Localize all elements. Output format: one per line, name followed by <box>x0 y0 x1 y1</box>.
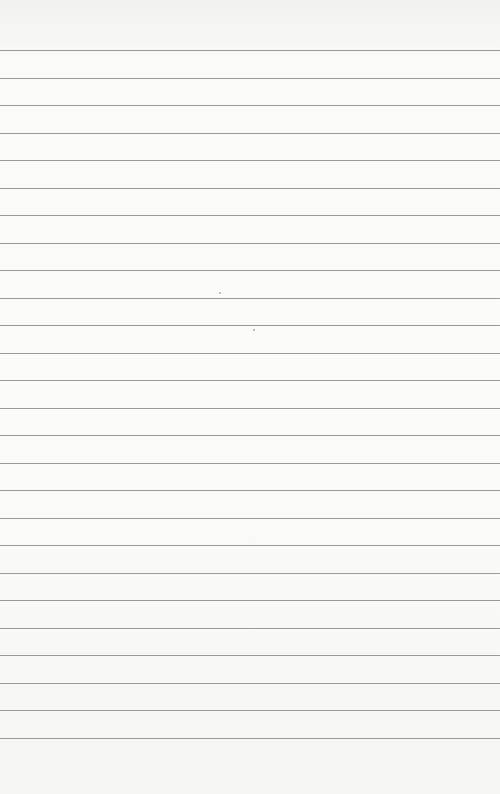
ruled-line <box>0 160 500 161</box>
ruled-line <box>0 298 500 299</box>
paper-speck <box>219 292 221 294</box>
ruled-line <box>0 683 500 684</box>
ruled-line <box>0 408 500 409</box>
ruled-line <box>0 655 500 656</box>
ruled-line <box>0 628 500 629</box>
paper-speck <box>253 329 255 331</box>
ruled-line <box>0 353 500 354</box>
ruled-line <box>0 215 500 216</box>
lined-paper-sheet <box>0 0 500 794</box>
ruled-line <box>0 105 500 106</box>
ruled-line <box>0 325 500 326</box>
ruled-line <box>0 188 500 189</box>
ruled-line <box>0 463 500 464</box>
ruled-line <box>0 600 500 601</box>
ruled-line <box>0 133 500 134</box>
ruled-line <box>0 738 500 739</box>
ruled-line <box>0 490 500 491</box>
ruled-line <box>0 243 500 244</box>
ruled-line <box>0 380 500 381</box>
ruled-line <box>0 545 500 546</box>
ruled-line <box>0 50 500 51</box>
ruled-line <box>0 435 500 436</box>
ruled-line <box>0 573 500 574</box>
ruled-line <box>0 518 500 519</box>
ruled-line <box>0 710 500 711</box>
ruled-line <box>0 78 500 79</box>
ruled-line <box>0 270 500 271</box>
